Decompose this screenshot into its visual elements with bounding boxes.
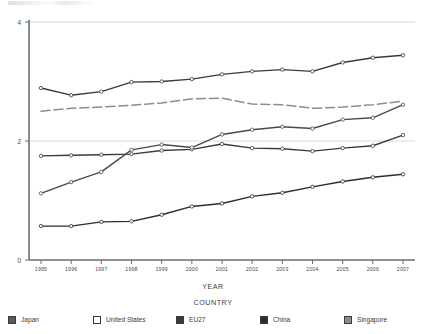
data-point-marker	[220, 142, 223, 145]
legend-swatch-icon	[260, 316, 268, 324]
data-point-marker	[69, 180, 72, 183]
chart-plot-area: 4 2 0 1995199619971998199920002001200220…	[0, 0, 427, 308]
data-point-marker	[401, 103, 404, 106]
legend-swatch-icon	[93, 316, 101, 324]
gridlines	[29, 22, 415, 141]
legend-title: COUNTRY	[194, 298, 233, 307]
x-tick-label: 2007	[397, 266, 409, 272]
data-point-marker	[341, 61, 344, 64]
data-point-marker	[401, 54, 404, 57]
data-point-marker	[401, 173, 404, 176]
data-point-marker	[130, 152, 133, 155]
x-tick-label: 1995	[35, 266, 47, 272]
y-tick-labels: 4 2 0	[17, 19, 21, 264]
legend-swatch-icon	[344, 316, 352, 324]
x-tick-label: 2002	[246, 266, 258, 272]
chart-legend: JapanUnited StatesEU27ChinaSingapore	[0, 309, 427, 331]
data-point-marker	[69, 224, 72, 227]
legend-item-japan[interactable]: Japan	[8, 316, 39, 324]
data-point-marker	[220, 202, 223, 205]
x-tick-label: 2001	[216, 266, 228, 272]
data-point-marker	[39, 154, 42, 157]
data-point-marker	[160, 80, 163, 83]
legend-swatch-icon	[8, 316, 16, 324]
data-point-marker	[401, 133, 404, 136]
legend-item-united-states[interactable]: United States	[93, 316, 146, 324]
legend-label: Singapore	[357, 317, 387, 324]
series-line	[41, 174, 403, 226]
data-point-marker	[311, 70, 314, 73]
data-point-marker	[371, 56, 374, 59]
data-point-marker	[371, 116, 374, 119]
x-tick-group: 1995199619971998199920002001200220032004…	[35, 260, 409, 272]
data-point-marker	[341, 180, 344, 183]
data-point-marker	[250, 195, 253, 198]
data-point-marker	[250, 128, 253, 131]
data-point-marker	[69, 93, 72, 96]
legend-item-singapore[interactable]: Singapore	[344, 316, 387, 324]
legend-label: United States	[106, 317, 146, 324]
data-point-marker	[371, 144, 374, 147]
data-point-marker	[281, 147, 284, 150]
series-singapore	[39, 103, 404, 195]
data-point-marker	[281, 125, 284, 128]
data-point-marker	[100, 220, 103, 223]
legend-label: Japan	[21, 317, 39, 324]
data-point-marker	[160, 143, 163, 146]
series-japan	[39, 54, 404, 97]
y-tick-label-2: 2	[17, 138, 21, 145]
data-point-marker	[100, 90, 103, 93]
data-point-marker	[69, 154, 72, 157]
data-point-marker	[190, 77, 193, 80]
legend-label: China	[273, 317, 290, 324]
data-point-marker	[250, 70, 253, 73]
data-point-marker	[100, 153, 103, 156]
legend-swatch-icon	[176, 316, 184, 324]
data-point-marker	[371, 176, 374, 179]
x-tick-label: 2005	[336, 266, 348, 272]
legend-item-china[interactable]: China	[260, 316, 290, 324]
data-point-marker	[311, 127, 314, 130]
data-point-marker	[220, 133, 223, 136]
data-point-marker	[130, 220, 133, 223]
y-tick-label-0: 0	[17, 257, 21, 264]
x-tick-label: 2003	[276, 266, 288, 272]
data-point-marker	[190, 146, 193, 149]
data-point-marker	[311, 185, 314, 188]
data-point-marker	[281, 191, 284, 194]
data-point-marker	[160, 213, 163, 216]
x-tick-label: 2000	[186, 266, 198, 272]
x-tick-label: 1999	[155, 266, 167, 272]
x-tick-label: 2004	[306, 266, 318, 272]
top-artifact	[8, 1, 98, 5]
data-point-marker	[160, 149, 163, 152]
data-point-marker	[130, 148, 133, 151]
data-point-marker	[39, 192, 42, 195]
series-eu27	[39, 133, 404, 157]
data-point-marker	[250, 146, 253, 149]
data-point-marker	[130, 80, 133, 83]
data-point-marker	[220, 73, 223, 76]
data-point-marker	[341, 118, 344, 121]
data-point-marker	[341, 146, 344, 149]
series-line	[41, 98, 403, 111]
data-point-marker	[281, 68, 284, 71]
legend-item-eu27[interactable]: EU27	[176, 316, 206, 324]
data-point-marker	[39, 86, 42, 89]
x-tick-label: 1996	[65, 266, 77, 272]
data-point-marker	[100, 170, 103, 173]
data-point-marker	[190, 205, 193, 208]
line-chart-figure: 4 2 0 1995199619971998199920002001200220…	[0, 0, 427, 334]
x-tick-label: 1998	[125, 266, 137, 272]
legend-label: EU27	[189, 317, 206, 324]
x-axis-title: YEAR	[202, 282, 224, 291]
data-point-marker	[39, 224, 42, 227]
series-china	[39, 173, 404, 228]
y-tick-label-4: 4	[17, 19, 21, 26]
x-tick-label: 1997	[95, 266, 107, 272]
data-point-marker	[311, 149, 314, 152]
series-united-states	[41, 98, 403, 111]
x-tick-label: 2006	[367, 266, 379, 272]
